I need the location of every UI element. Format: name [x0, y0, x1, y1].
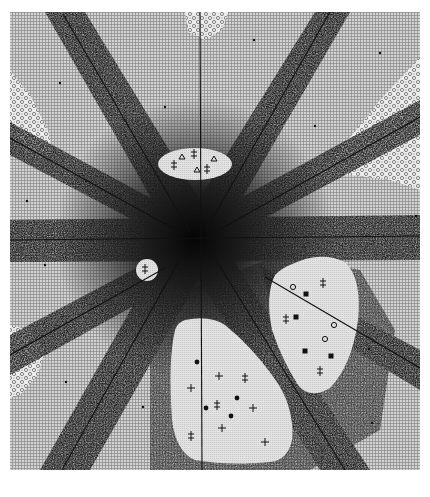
filled-square-marker [304, 292, 309, 297]
diagram-figure [0, 0, 430, 497]
filled-square-marker [303, 349, 308, 354]
filled-circle-marker [204, 406, 209, 411]
filled-circle-marker [229, 414, 234, 419]
filled-square-marker [294, 315, 299, 320]
filled-square-marker [329, 354, 334, 359]
filled-circle-marker [235, 396, 240, 401]
filled-circle-marker [195, 360, 200, 365]
clear-region-top-ellipse [158, 148, 232, 180]
